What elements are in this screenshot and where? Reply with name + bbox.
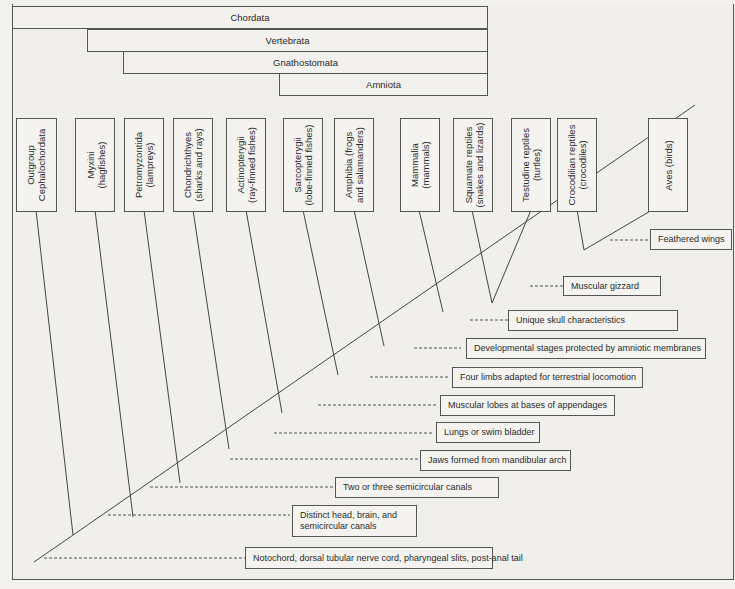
- taxon-label: Outgroup Cephalochordata: [26, 129, 48, 201]
- taxon-label: Myxini (hagfishes): [84, 142, 106, 189]
- taxon-label: Chondrichthyes (sharks and rays): [182, 128, 204, 201]
- trait-distinct-head: Distinct head, brain, and semicircular c…: [292, 505, 417, 537]
- taxon-label: Squamate reptiles (snakes and lizards): [462, 122, 484, 207]
- taxon-label: Actinopterygii (ray-finned fishes): [235, 127, 257, 203]
- taxon-testudines: Testudine reptiles (turtles): [511, 118, 551, 212]
- taxon-label: Mammalia (mammals): [409, 141, 431, 189]
- trait-jaws: Jaws formed from mandibular arch: [420, 450, 571, 471]
- taxon-myxini: Myxini (hagfishes): [75, 118, 115, 212]
- trait-feathered-wings: Feathered wings: [650, 229, 732, 250]
- trait-semicircular-canals: Two or three semicircular canals: [335, 477, 499, 498]
- taxon-outgroup: Outgroup Cephalochordata: [16, 118, 57, 212]
- taxon-sarcopterygii: Sarcopterygii (lobe-finned fishes): [283, 118, 323, 212]
- taxon-label: Amphibia (frogs and salamanders): [343, 127, 365, 203]
- taxon-label: Testudine reptiles (turtles): [520, 128, 542, 202]
- taxon-chondrichthyes: Chondrichthyes (sharks and rays): [173, 118, 213, 212]
- trait-four-limbs: Four limbs adapted for terrestrial locom…: [452, 367, 643, 388]
- taxon-actinopterygii: Actinopterygii (ray-finned fishes): [226, 118, 266, 212]
- trait-lungs-swim-bladder: Lungs or swim bladder: [436, 422, 540, 443]
- taxon-aves: Aves (birds): [648, 118, 688, 212]
- trait-notochord: Notochord, dorsal tubular nerve cord, ph…: [245, 547, 493, 569]
- taxon-label: Sarcopterygii (lobe-finned fishes): [292, 125, 314, 206]
- taxon-crocodilia: Crocodilian reptiles (crocodiles): [557, 118, 597, 212]
- trait-muscular-gizzard: Muscular gizzard: [563, 276, 661, 296]
- taxon-petromyzontida: Petromyzontida (lampreys): [124, 118, 164, 212]
- taxon-mammalia: Mammalia (mammals): [400, 118, 440, 212]
- trait-unique-skull: Unique skull characteristics: [508, 310, 678, 331]
- taxon-amphibia: Amphibia (frogs and salamanders): [334, 118, 374, 212]
- taxon-label: Crocodilian reptiles (crocodiles): [566, 125, 588, 206]
- taxon-label: Aves (birds): [663, 140, 674, 191]
- taxon-label: Petromyzontida (lampreys): [133, 132, 155, 198]
- taxon-squamata: Squamate reptiles (snakes and lizards): [453, 118, 493, 212]
- trait-muscular-lobes: Muscular lobes at bases of appendages: [440, 395, 615, 416]
- trait-amniotic-membranes: Developmental stages protected by amniot…: [466, 338, 706, 359]
